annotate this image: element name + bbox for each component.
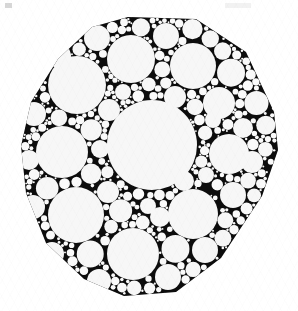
packing-disk (111, 91, 115, 95)
packing-disk (40, 92, 51, 103)
packing-disk (265, 136, 271, 142)
packing-disk (118, 197, 121, 200)
packing-disk (156, 287, 161, 292)
packing-disk (105, 91, 111, 97)
packing-disk (180, 270, 185, 275)
packing-disk (245, 138, 247, 140)
packing-disk (38, 221, 40, 223)
packing-disk (186, 99, 189, 102)
packing-disk (190, 119, 192, 121)
packing-disk (115, 84, 131, 100)
packing-disk (268, 159, 274, 165)
packing-disk (184, 19, 186, 21)
packing-disk (103, 265, 109, 271)
packing-disk (117, 180, 125, 188)
packing-disk (104, 220, 118, 234)
packing-disk (51, 109, 68, 126)
packing-disk (136, 216, 150, 230)
packing-disk (127, 281, 142, 296)
packing-disk (121, 222, 128, 229)
packing-disk (44, 81, 47, 84)
packing-disk (46, 128, 48, 130)
packing-disk (84, 53, 89, 58)
packing-disk (157, 227, 162, 232)
packing-disk (99, 264, 101, 266)
packing-disk (41, 221, 50, 230)
packing-disk (64, 241, 69, 246)
packing-disk (177, 262, 184, 269)
packing-disk (91, 140, 109, 158)
packing-disk (258, 169, 266, 177)
packing-disk (226, 174, 234, 182)
packing-disk (148, 40, 152, 44)
packing-disk (200, 146, 209, 155)
packing-disk (55, 177, 57, 179)
packing-disk (96, 60, 100, 64)
packing-disk (130, 96, 132, 98)
packing-disk (47, 102, 49, 104)
packing-disk (75, 265, 77, 267)
packing-disk (59, 178, 70, 189)
packing-disk (121, 81, 123, 83)
packing-disk (244, 91, 268, 115)
packing-disk (271, 133, 277, 139)
packing-disk (130, 22, 132, 24)
packing-disk (170, 43, 216, 89)
packing-disk (234, 110, 242, 118)
packing-disk (222, 119, 233, 130)
packing-disk (101, 261, 105, 265)
figure-root (0, 0, 298, 311)
packing-disk (232, 51, 241, 60)
packing-disk (128, 21, 131, 24)
packing-disk (209, 232, 215, 238)
packing-disk (130, 201, 135, 206)
packing-disk (143, 37, 145, 39)
packing-disk (178, 37, 186, 45)
packing-disk (102, 66, 109, 73)
packing-disk (115, 34, 119, 38)
packing-disk (146, 37, 150, 41)
packing-disk (88, 49, 92, 53)
packing-disk (204, 26, 209, 31)
packing-disk (217, 59, 245, 87)
packing-disk (79, 39, 83, 43)
packing-disk (119, 188, 122, 191)
packing-disk (199, 153, 201, 155)
packing-disk (168, 189, 218, 239)
packing-disk (157, 240, 159, 242)
packing-disk (252, 203, 255, 206)
packing-disk (68, 256, 78, 266)
packing-disk (175, 19, 184, 28)
packing-disk (225, 86, 227, 88)
packing-disk (58, 241, 61, 244)
packing-disk (36, 129, 39, 132)
packing-disk (109, 199, 132, 222)
packing-disk (46, 231, 55, 240)
packing-disk (127, 221, 129, 223)
packing-disk (109, 179, 111, 181)
packing-disk (226, 130, 228, 132)
packing-disk (47, 121, 51, 125)
packing-disk (112, 95, 116, 99)
packing-disk (233, 89, 239, 95)
packing-disk (231, 116, 235, 120)
packing-disk (193, 125, 195, 127)
packing-disk (270, 113, 274, 117)
packing-disk (220, 182, 246, 208)
packing-disk (178, 28, 180, 30)
packing-disk (64, 251, 66, 253)
packing-disk (206, 143, 210, 147)
packing-disk (246, 215, 248, 217)
packing-disk (131, 101, 134, 104)
packing-disk (75, 124, 80, 129)
packing-disk (126, 280, 130, 284)
packing-disk (213, 196, 218, 201)
packing-disk (196, 95, 200, 99)
packing-disk (147, 227, 153, 233)
packing-disk (71, 177, 81, 187)
packing-disk (107, 85, 113, 91)
packing-disk (126, 99, 131, 104)
packing-disk (181, 275, 189, 283)
packing-disk (98, 158, 105, 165)
packing-disk (212, 167, 215, 170)
